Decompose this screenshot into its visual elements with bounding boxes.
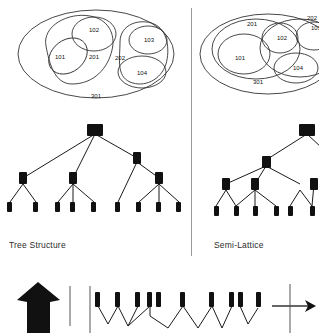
bottom-strip: 3 (0, 266, 319, 333)
set-label-202: 202 (115, 55, 126, 61)
lattice-node-leaf (274, 206, 279, 216)
set-outline-102 (72, 17, 116, 51)
figure-canvas: 101 102 103 104 201 202 301 101 102 103 … (0, 0, 319, 333)
venn-diagram-semilattice: 101 102 103 104 201 202 301 (196, 2, 319, 110)
tree-node-branch (69, 172, 77, 184)
lattice-node-leaf (214, 206, 219, 216)
caption-semi-lattice: Semi-Lattice (214, 240, 264, 250)
set-label-201-right: 201 (247, 21, 258, 27)
lattice-node-leaf (310, 206, 315, 216)
tree-structure-graph (4, 118, 186, 228)
lattice-node-root (299, 124, 315, 136)
set-label-103: 103 (144, 37, 155, 43)
tree-node-root (87, 124, 103, 136)
lattice-node-leaf (288, 206, 293, 216)
set-label-101: 101 (55, 54, 66, 60)
venn-diagram-tree: 101 102 103 104 201 202 301 (8, 2, 184, 110)
panel-divider (191, 8, 192, 256)
set-label-202-right: 202 (307, 15, 318, 21)
lattice-node-branch (262, 156, 271, 168)
set-label-201: 201 (89, 54, 100, 60)
set-label-104-right: 104 (293, 65, 304, 71)
lattice-node-branch (222, 178, 230, 190)
arrow-up-icon (17, 282, 60, 333)
tree-node-leaf (7, 202, 12, 212)
lattice-tick-marks (95, 292, 261, 307)
set-label-301-right: 301 (253, 79, 264, 85)
tree-node-leaf (176, 202, 181, 212)
caption-tree-structure: Tree Structure (9, 240, 66, 250)
lattice-node-branch (310, 178, 318, 190)
tree-node-leaf (70, 202, 75, 212)
semi-lattice-graph (200, 118, 319, 228)
tree-node-leaf (115, 202, 120, 212)
set-label-101-right: 101 (235, 55, 246, 61)
tree-node-leaf (156, 202, 161, 212)
set-label-102-right: 102 (277, 35, 288, 41)
set-label-301: 301 (91, 93, 102, 99)
tree-node-leaf (136, 202, 141, 212)
lattice-node-leaf (234, 206, 239, 216)
set-label-104: 104 (137, 70, 148, 76)
tree-node-leaf (33, 202, 38, 212)
lattice-pattern (98, 306, 258, 328)
tree-node-branch (155, 172, 163, 184)
set-outline-101 (42, 30, 95, 81)
tree-node-branch (133, 152, 141, 164)
set-label-103-right: 103 (311, 25, 319, 31)
lattice-node-branch (251, 178, 259, 190)
tree-node-branch (19, 172, 27, 184)
lattice-node-leaf (253, 206, 258, 216)
set-label-102: 102 (89, 27, 100, 33)
set-outline-201-right (212, 19, 300, 79)
tree-node-leaf (91, 202, 96, 212)
tree-node-leaf (55, 202, 60, 212)
